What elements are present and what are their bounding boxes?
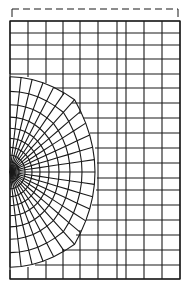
dashed-boundary-marker	[12, 9, 178, 17]
crack-tip-mesh-diagram	[0, 0, 190, 287]
radial-focused-mesh	[10, 77, 95, 267]
